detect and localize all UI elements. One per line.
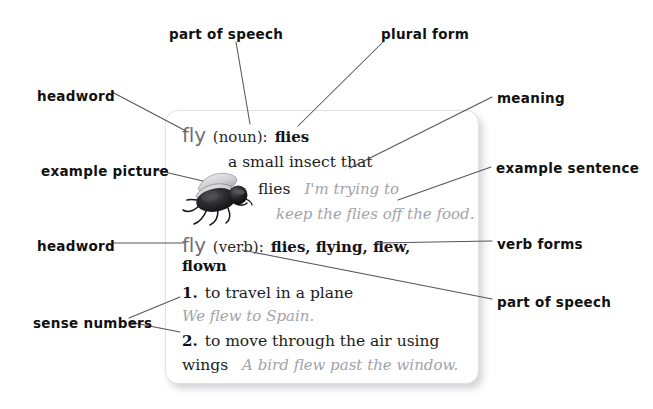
part-of-speech-verb-text: (verb):	[213, 238, 264, 256]
diagram-canvas: fly(noun):flies a small insect that flie…	[0, 0, 653, 409]
annotation-meaning: meaning	[497, 92, 565, 106]
annotation-part-of-speech-top: part of speech	[169, 28, 283, 42]
annotation-headword-noun: headword	[37, 90, 115, 104]
noun-definition-line-2: fliesI'm trying to	[258, 181, 399, 198]
noun-definition-word: flies	[258, 180, 290, 198]
noun-entry-headline: fly(noun):flies	[182, 125, 309, 145]
sense-number-2: 2.	[182, 332, 198, 350]
annotation-headword-verb: headword	[37, 240, 115, 254]
annotation-example-sentence: example sentence	[496, 162, 639, 176]
annotation-verb-forms: verb forms	[497, 238, 583, 252]
sense-2-definition: to move through the air using	[205, 332, 440, 350]
annotation-part-of-speech-right: part of speech	[497, 296, 611, 310]
card-content: fly(noun):flies a small insect that flie…	[166, 111, 478, 383]
headword-verb-text: fly	[182, 233, 206, 257]
noun-example-line-1: I'm trying to	[304, 180, 399, 198]
sense-2-example: A bird flew past the window.	[242, 356, 458, 374]
example-picture-fly	[174, 169, 258, 227]
dictionary-entry-card: fly(noun):flies a small insect that flie…	[165, 110, 479, 384]
annotation-sense-numbers: sense numbers	[33, 317, 152, 331]
sense-number-1: 1.	[182, 284, 198, 302]
part-of-speech-noun-text: (noun):	[213, 128, 268, 146]
verb-forms-line-1: flies, flying, flew,	[271, 238, 411, 256]
verb-entry-headline: fly(verb):flies, flying, flew,	[182, 235, 410, 255]
sense-1-example: We flew to Spain.	[182, 309, 314, 324]
verb-forms-line-2: flown	[182, 259, 227, 274]
headword-noun-text: fly	[182, 123, 206, 147]
sense-2-definition-cont: wings	[182, 356, 228, 374]
noun-example-line-2: keep the flies off the food.	[276, 207, 474, 222]
sense-2-line: 2.to move through the air using	[182, 333, 439, 350]
sense-1-line: 1.to travel in a plane	[182, 285, 353, 302]
annotation-example-picture: example picture	[41, 165, 169, 179]
annotation-plural-form: plural form	[381, 28, 469, 42]
sense-1-definition: to travel in a plane	[205, 284, 354, 302]
sense-2-continuation-line: wingsA bird flew past the window.	[182, 357, 458, 374]
plural-form-text: flies	[275, 128, 310, 146]
